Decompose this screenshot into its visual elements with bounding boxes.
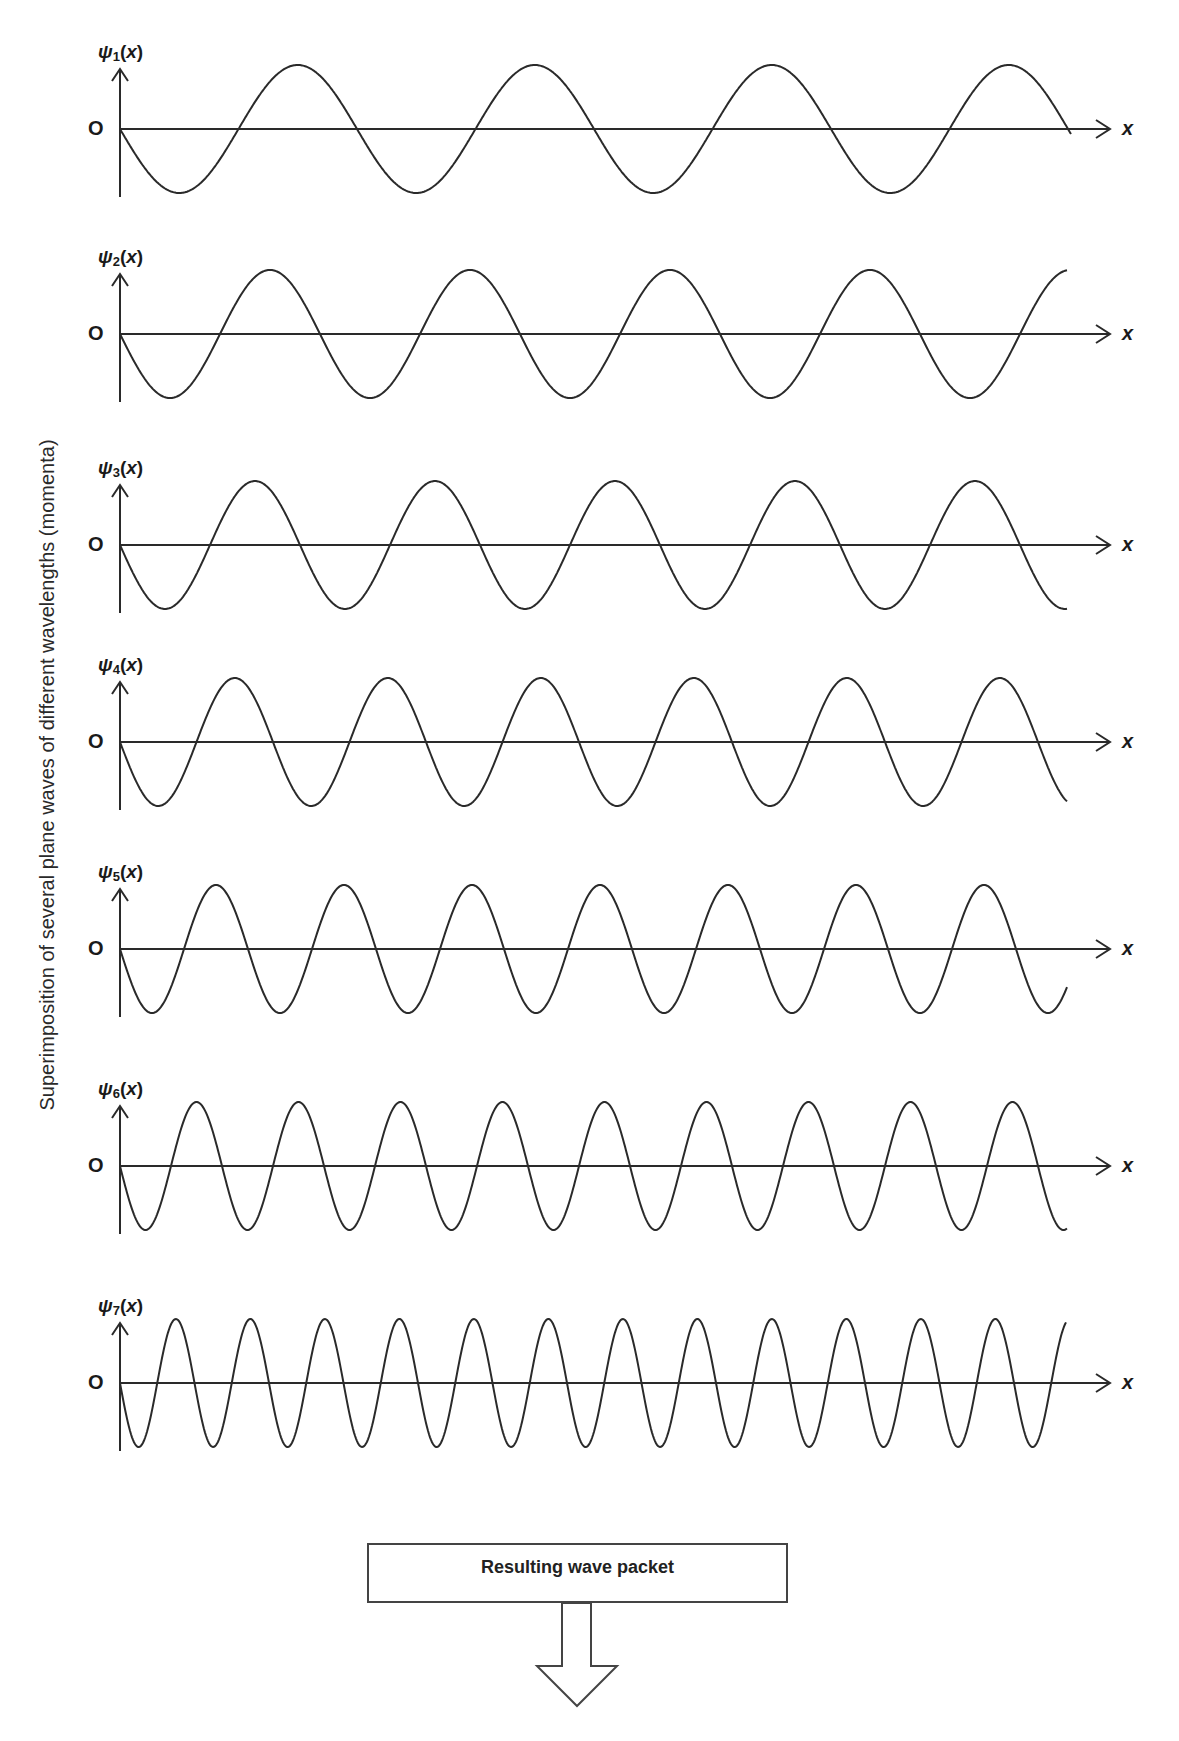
wave-label-psi-3: ψ3(x): [98, 457, 143, 480]
wave-panel-4: [112, 678, 1110, 810]
origin-label: O: [88, 533, 104, 556]
wave-label-psi-4: ψ4(x): [98, 654, 143, 677]
x-axis-label: x: [1122, 533, 1133, 556]
resulting-wave-packet-label: Resulting wave packet: [369, 1557, 786, 1578]
wave-plots: [112, 65, 1110, 1451]
wave-panel-7: [112, 1319, 1110, 1451]
x-axis-label: x: [1122, 117, 1133, 140]
origin-label: O: [88, 117, 104, 140]
x-axis-label: x: [1122, 1154, 1133, 1177]
wave-label-psi-2: ψ2(x): [98, 246, 143, 269]
resulting-wave-packet-box: Resulting wave packet: [367, 1543, 788, 1603]
x-axis-label: x: [1122, 322, 1133, 345]
origin-label: O: [88, 937, 104, 960]
side-label: Superimposition of several plane waves o…: [35, 325, 59, 1225]
x-axis-label: x: [1122, 730, 1133, 753]
origin-label: O: [88, 1154, 104, 1177]
wave-label-psi-1: ψ1(x): [98, 41, 143, 64]
wave-label-psi-6: ψ6(x): [98, 1078, 143, 1101]
wave-panel-2: [112, 270, 1110, 402]
wave-diagram-canvas: [0, 0, 1179, 1741]
down-arrow-icon: [537, 1603, 617, 1706]
x-axis-label: x: [1122, 937, 1133, 960]
wave-label-psi-5: ψ5(x): [98, 861, 143, 884]
origin-label: O: [88, 1371, 104, 1394]
x-axis-label: x: [1122, 1371, 1133, 1394]
wave-panel-1: [112, 65, 1110, 197]
wave-panel-6: [112, 1102, 1110, 1234]
wave-label-psi-7: ψ7(x): [98, 1295, 143, 1318]
wave-panel-5: [112, 885, 1110, 1017]
origin-label: O: [88, 322, 104, 345]
wave-panel-3: [112, 481, 1110, 613]
origin-label: O: [88, 730, 104, 753]
